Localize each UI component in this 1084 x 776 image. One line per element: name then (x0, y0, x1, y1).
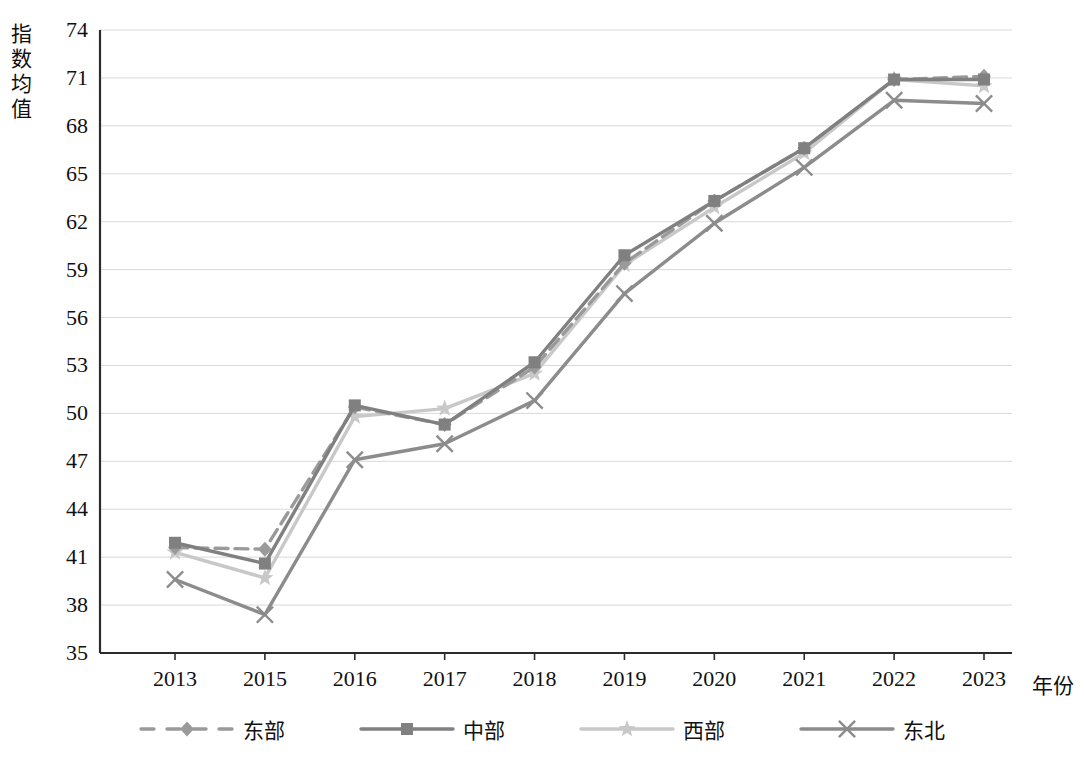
legend-item-中部[interactable]: 中部 (322, 714, 542, 744)
y-axis-tick-label: 38 (36, 594, 88, 616)
y-axis-tick-label: 62 (36, 211, 88, 233)
data-point-marker-square (439, 419, 451, 431)
legend-label: 东部 (241, 714, 285, 744)
legend-item-东北[interactable]: 东北 (762, 714, 982, 744)
data-point-marker-square (259, 558, 271, 570)
y-axis-tick-label: 50 (36, 402, 88, 424)
y-axis-tick-label: 59 (36, 259, 88, 281)
series-东北 (167, 92, 992, 623)
legend-label: 西部 (681, 714, 725, 744)
data-point-marker-x (616, 285, 632, 301)
series-东部 (168, 69, 991, 557)
y-axis-tick-label: 71 (36, 67, 88, 89)
y-axis-tick-label: 65 (36, 163, 88, 185)
x-axis-tick-label: 2023 (939, 668, 1029, 690)
data-point-marker-diamond (180, 722, 194, 737)
x-axis-tick-label: 2017 (400, 668, 490, 690)
x-axis-tick-label: 2013 (130, 668, 220, 690)
x-axis-tick-label: 2022 (849, 668, 939, 690)
data-point-marker-square (798, 142, 810, 154)
y-axis-tick-label: 41 (36, 546, 88, 568)
x-axis-tick-label: 2021 (759, 668, 849, 690)
line-chart: 指数均值 7471686562595653504744413835 201320… (0, 0, 1084, 776)
data-point-marker-square (349, 399, 361, 411)
data-point-marker-star (256, 569, 273, 585)
series-line (175, 80, 984, 578)
series-西部 (166, 71, 992, 586)
data-point-marker-x (167, 571, 183, 587)
data-point-marker-square (978, 74, 990, 86)
data-point-marker-square (169, 537, 181, 549)
data-point-marker-square (708, 195, 720, 207)
series-line (175, 76, 984, 549)
x-axis-tick-label: 2016 (310, 668, 400, 690)
data-point-marker-x (706, 215, 722, 231)
y-axis-tick-label: 53 (36, 354, 88, 376)
legend-marker-x-solid (799, 718, 895, 740)
x-axis-title: 年份 (1032, 669, 1074, 699)
y-axis-tick-label: 56 (36, 307, 88, 329)
data-point-marker-star (618, 720, 635, 736)
data-point-marker-x (796, 159, 812, 175)
legend-marker-diamond-dashed (139, 718, 235, 740)
x-axis-tick-label: 2018 (490, 668, 580, 690)
data-point-marker-square (401, 723, 413, 735)
legend-marker-square-solid (359, 718, 455, 740)
data-point-marker-square (618, 249, 630, 261)
x-axis-tick-label: 2019 (579, 668, 669, 690)
plot-area (0, 0, 1084, 776)
legend-label: 中部 (461, 714, 505, 744)
y-axis-tick-label: 44 (36, 498, 88, 520)
y-axis-tick-label: 68 (36, 115, 88, 137)
series-line (175, 100, 984, 614)
y-axis-tick-labels: 7471686562595653504744413835 (30, 0, 88, 776)
data-point-marker-square (529, 356, 541, 368)
data-point-marker-square (888, 74, 900, 86)
legend-label: 东北 (901, 714, 945, 744)
data-point-marker-x (257, 607, 273, 623)
x-axis-tick-label: 2020 (669, 668, 759, 690)
x-axis-tick-label: 2015 (220, 668, 310, 690)
data-point-marker-x (526, 393, 542, 409)
y-axis-tick-label: 47 (36, 450, 88, 472)
chart-legend: 东部中部西部东北 (0, 714, 1084, 744)
y-axis-tick-label: 74 (36, 19, 88, 41)
y-axis-tick-label: 35 (36, 642, 88, 664)
legend-item-西部[interactable]: 西部 (542, 714, 762, 744)
legend-marker-star-solid (579, 718, 675, 740)
legend-item-东部[interactable]: 东部 (102, 714, 322, 744)
